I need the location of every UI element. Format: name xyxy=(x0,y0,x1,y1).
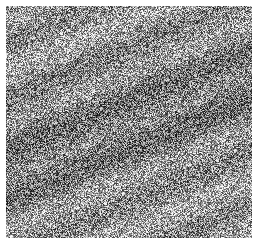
noise-texture-image xyxy=(6,6,252,238)
